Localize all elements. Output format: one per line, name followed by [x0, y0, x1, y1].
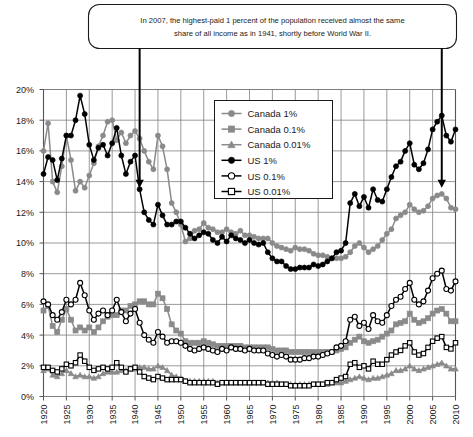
data-point	[430, 127, 435, 132]
data-point	[366, 326, 371, 331]
data-point	[110, 365, 114, 369]
data-point	[361, 194, 366, 199]
data-point	[156, 374, 160, 378]
data-point	[91, 330, 96, 335]
data-point	[87, 173, 92, 178]
data-point	[46, 365, 50, 369]
data-point	[453, 319, 458, 324]
data-point	[101, 308, 106, 313]
data-point	[325, 259, 330, 264]
data-point	[243, 380, 247, 384]
data-point	[339, 376, 343, 380]
legend-label: US 0.01%	[248, 186, 291, 197]
data-point	[197, 380, 201, 384]
data-point	[224, 348, 229, 353]
data-point	[87, 365, 91, 369]
data-point	[279, 259, 284, 264]
legend-label: US 1%	[248, 155, 278, 166]
data-point	[119, 310, 124, 315]
data-point	[215, 241, 220, 246]
data-point	[123, 171, 128, 176]
data-point	[55, 178, 60, 183]
x-tick-label: 1970	[268, 405, 278, 425]
data-point	[105, 153, 110, 158]
data-point	[371, 187, 376, 192]
data-point	[178, 331, 183, 336]
data-point	[169, 377, 173, 381]
data-point	[234, 380, 238, 384]
data-point	[73, 361, 77, 365]
data-point	[114, 297, 119, 302]
data-point	[101, 319, 106, 324]
data-point	[78, 353, 82, 357]
data-point	[288, 248, 293, 253]
annotation-box	[89, 5, 457, 49]
data-point	[82, 112, 87, 117]
data-point	[453, 127, 458, 132]
data-point	[55, 370, 59, 374]
data-point	[50, 368, 54, 372]
x-tick-label: 1920	[39, 405, 49, 425]
data-point	[380, 237, 385, 242]
x-tick-label: 2005	[428, 405, 438, 425]
data-point	[426, 316, 431, 321]
annotation-line-2: share of all income as in 1941, shortly …	[174, 29, 371, 38]
data-point	[444, 311, 449, 316]
data-point	[393, 297, 398, 302]
y-tick-label: 4%	[21, 331, 34, 341]
data-point	[238, 237, 243, 242]
data-point	[50, 158, 55, 163]
data-point	[426, 345, 430, 349]
data-point	[448, 288, 453, 293]
data-point	[348, 201, 353, 206]
data-point	[265, 236, 270, 241]
data-point	[385, 357, 389, 361]
data-point	[115, 361, 119, 365]
data-point	[151, 340, 156, 345]
data-point	[146, 337, 151, 342]
data-point	[261, 380, 265, 384]
x-tick-label: 1985	[336, 405, 346, 425]
data-point	[165, 377, 169, 381]
x-tick-label: 1980	[314, 405, 324, 425]
data-point	[82, 185, 87, 190]
data-point	[101, 365, 105, 369]
data-point	[73, 118, 78, 123]
data-point	[229, 233, 234, 238]
data-point	[407, 202, 412, 207]
legend-label: Canada 1%	[248, 108, 298, 119]
data-point	[224, 380, 228, 384]
data-point	[348, 250, 353, 255]
data-point	[179, 377, 183, 381]
data-point	[321, 382, 325, 386]
x-tick-label: 1930	[85, 405, 95, 425]
data-point	[87, 308, 92, 313]
data-point	[270, 241, 275, 246]
data-point	[110, 308, 115, 313]
data-point	[101, 133, 106, 138]
data-point	[398, 348, 402, 352]
data-point	[439, 191, 444, 196]
data-point	[403, 210, 408, 215]
data-point	[60, 367, 64, 371]
data-point	[352, 244, 357, 249]
data-point	[169, 222, 174, 227]
data-point	[183, 239, 188, 244]
data-point	[160, 334, 165, 339]
data-point	[206, 380, 210, 384]
data-point	[421, 161, 426, 166]
data-point	[330, 380, 334, 384]
data-point	[352, 191, 357, 196]
data-point	[147, 376, 151, 380]
data-point	[224, 239, 229, 244]
data-point	[444, 345, 448, 349]
y-tick-label: 12%	[16, 208, 34, 218]
data-point	[412, 297, 417, 302]
annotation-callout: In 2007, the highest-paid 1 percent of t…	[89, 5, 457, 49]
data-point	[439, 307, 444, 312]
data-point	[142, 333, 147, 338]
data-point	[435, 119, 440, 124]
data-point	[78, 280, 83, 285]
data-point	[87, 142, 92, 147]
data-point	[68, 133, 73, 138]
